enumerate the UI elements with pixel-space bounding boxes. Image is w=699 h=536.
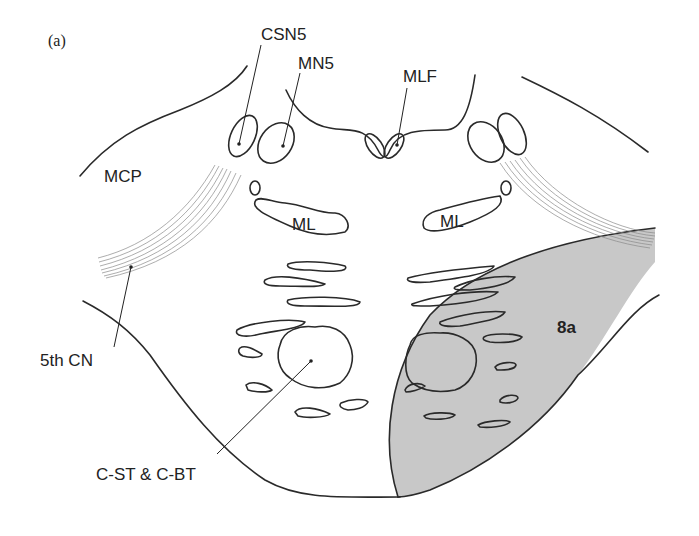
- mn5-right: [460, 115, 511, 169]
- label-fifth-cn: 5th CN: [40, 351, 93, 370]
- label-ml-right: ML: [440, 212, 464, 231]
- panel-label: (a): [48, 32, 66, 50]
- lesion-region-8a: [389, 228, 659, 497]
- label-cst-cbt: C-ST & C-BT: [96, 465, 196, 484]
- csn5-left: [223, 111, 263, 161]
- label-ml-left: ML: [292, 215, 316, 234]
- brainstem-cross-section-diagram: (a): [0, 0, 699, 536]
- label-mlf: MLF: [403, 67, 437, 86]
- mn5-left: [250, 116, 301, 170]
- label-mn5: MN5: [298, 54, 334, 73]
- label-mcp: MCP: [104, 167, 142, 186]
- mlf-right: [380, 131, 408, 162]
- left-dorsal-boundary: [80, 66, 247, 176]
- label-lesion-8a: 8a: [557, 318, 576, 337]
- csn5-right: [492, 109, 532, 159]
- small-oval-left: [250, 181, 260, 195]
- fourth-ventricle-floor: [286, 75, 475, 157]
- small-oval-right: [501, 181, 511, 195]
- label-csn5: CSN5: [261, 25, 306, 44]
- right-dorsal-boundary: [522, 77, 648, 152]
- corticospinal-tract-left: [278, 326, 352, 387]
